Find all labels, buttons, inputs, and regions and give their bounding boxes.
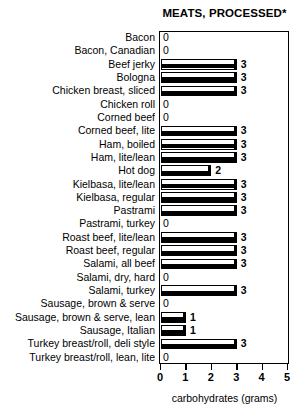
chart-row: Turkey breast/roll, deli style3 bbox=[0, 337, 306, 350]
chart-row: Sausage, brown & serve, lean1 bbox=[0, 311, 306, 324]
chart-row: Hot dog2 bbox=[0, 164, 306, 177]
bar-end-cap bbox=[234, 179, 237, 190]
bar-end-cap bbox=[234, 205, 237, 216]
bar-value-label: 0 bbox=[163, 351, 169, 364]
bar-value-label: 0 bbox=[163, 297, 169, 310]
bar-value-label: 3 bbox=[241, 124, 247, 137]
chart-row: Turkey breast/roll, lean, lite0 bbox=[0, 351, 306, 364]
chart-row: Sausage, brown & serve0 bbox=[0, 297, 306, 310]
category-label: Turkey breast/roll, deli style bbox=[28, 337, 155, 350]
category-label: Chicken breast, sliced bbox=[52, 84, 155, 97]
bar-shadow bbox=[162, 211, 236, 215]
bar-value-label: 3 bbox=[241, 191, 247, 204]
bar bbox=[161, 59, 237, 70]
bar-end-cap bbox=[234, 192, 237, 203]
bar-value-label: 0 bbox=[163, 111, 169, 124]
bar-value-label: 3 bbox=[241, 151, 247, 164]
bar bbox=[161, 152, 237, 163]
x-axis-tick bbox=[287, 364, 288, 370]
bar-end-cap bbox=[234, 339, 237, 350]
category-label: Sausage, Italian bbox=[80, 324, 155, 337]
chart-row: Sausage, Italian1 bbox=[0, 324, 306, 337]
category-label: Corned beef, lite bbox=[78, 124, 155, 137]
category-label: Kielbasa, regular bbox=[76, 191, 155, 204]
bar-end-cap bbox=[234, 285, 237, 296]
chart-row: Ham, boiled3 bbox=[0, 138, 306, 151]
bar-end-cap bbox=[234, 139, 237, 150]
category-label: Bologna bbox=[116, 71, 155, 84]
bar bbox=[161, 139, 237, 150]
bar bbox=[161, 259, 237, 270]
bar-value-label: 3 bbox=[241, 244, 247, 257]
bar bbox=[161, 179, 237, 190]
category-label: Salami, all beef bbox=[83, 257, 155, 270]
bar-shadow bbox=[162, 64, 236, 68]
chart-row: Salami, turkey3 bbox=[0, 284, 306, 297]
bar-value-label: 1 bbox=[190, 324, 196, 337]
bar-value-label: 3 bbox=[241, 204, 247, 217]
category-label: Pastrami bbox=[114, 204, 155, 217]
chart-rows: Bacon0Bacon, Canadian0Beef jerky3Bologna… bbox=[0, 31, 306, 364]
category-label: Sausage, brown & serve bbox=[41, 297, 155, 310]
bar bbox=[161, 232, 237, 243]
bar-value-label: 1 bbox=[190, 311, 196, 324]
bar-value-label: 3 bbox=[241, 84, 247, 97]
bar-shadow bbox=[162, 264, 236, 268]
bar bbox=[161, 72, 237, 83]
bar-end-cap bbox=[234, 152, 237, 163]
category-label: Roast beef, regular bbox=[66, 244, 155, 257]
x-axis-tick-label: 4 bbox=[252, 371, 272, 383]
category-label: Bacon, Canadian bbox=[74, 44, 155, 57]
chart-row: Chicken roll0 bbox=[0, 98, 306, 111]
bar-value-label: 3 bbox=[241, 138, 247, 151]
bar-shadow bbox=[162, 171, 210, 175]
bar bbox=[161, 339, 237, 350]
chart-row: Salami, all beef3 bbox=[0, 257, 306, 270]
chart-row: Bacon, Canadian0 bbox=[0, 44, 306, 57]
bar-value-label: 2 bbox=[215, 164, 221, 177]
bar-shadow bbox=[162, 157, 236, 161]
category-label: Salami, turkey bbox=[88, 284, 155, 297]
bar-end-cap bbox=[208, 165, 211, 176]
chart-row: Chicken breast, sliced3 bbox=[0, 84, 306, 97]
bar-shadow bbox=[162, 184, 236, 188]
category-label: Kielbasa, lite/lean bbox=[73, 178, 155, 191]
chart-row: Roast beef, lite/lean3 bbox=[0, 231, 306, 244]
bar-value-label: 0 bbox=[163, 31, 169, 44]
chart-row: Roast beef, regular3 bbox=[0, 244, 306, 257]
x-axis-tick-label: 0 bbox=[150, 371, 170, 383]
chart-row: Ham, lite/lean3 bbox=[0, 151, 306, 164]
category-label: Chicken roll bbox=[100, 98, 155, 111]
chart-row: Bacon0 bbox=[0, 31, 306, 44]
bar-shadow bbox=[162, 251, 236, 255]
x-axis-tick bbox=[236, 364, 237, 370]
x-axis-tick-label: 1 bbox=[175, 371, 195, 383]
x-axis-tick bbox=[185, 364, 186, 370]
chart-row: Corned beef, lite3 bbox=[0, 124, 306, 137]
bar bbox=[161, 325, 186, 336]
chart-row: Bologna3 bbox=[0, 71, 306, 84]
x-axis-tick bbox=[262, 364, 263, 370]
bar bbox=[161, 165, 212, 176]
category-label: Roast beef, lite/lean bbox=[62, 231, 155, 244]
bar-value-label: 3 bbox=[241, 284, 247, 297]
category-label: Ham, lite/lean bbox=[91, 151, 155, 164]
bar-shadow bbox=[162, 237, 236, 241]
bar-shadow bbox=[162, 330, 185, 334]
x-axis-title: carbohydrates (grams) bbox=[159, 392, 290, 404]
chart-row: Pastrami3 bbox=[0, 204, 306, 217]
category-label: Turkey breast/roll, lean, lite bbox=[29, 351, 155, 364]
chart-row: Salami, dry, hard0 bbox=[0, 271, 306, 284]
bar-shadow bbox=[162, 317, 185, 321]
bar-value-label: 3 bbox=[241, 178, 247, 191]
bar bbox=[161, 312, 186, 323]
bar bbox=[161, 86, 237, 97]
chart-row: Corned beef0 bbox=[0, 111, 306, 124]
bar bbox=[161, 126, 237, 137]
bar-value-label: 0 bbox=[163, 217, 169, 230]
bar bbox=[161, 245, 237, 256]
chart-title: MEATS, PROCESSED* bbox=[159, 7, 290, 20]
x-axis-tick-label: 2 bbox=[201, 371, 221, 383]
x-axis-tick-label: 3 bbox=[226, 371, 246, 383]
bar-shadow bbox=[162, 144, 236, 148]
